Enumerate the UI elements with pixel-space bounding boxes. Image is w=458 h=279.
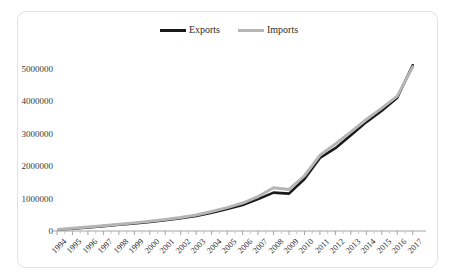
x-tick-label: 2005 [220, 237, 238, 255]
x-tick-label: 2007 [251, 237, 269, 255]
chart-container: Exports Imports 010000002000000300000040… [0, 0, 458, 279]
x-tick-label: 2016 [390, 237, 408, 255]
x-tick-label: 2017 [406, 237, 424, 255]
x-axis-tick-labels: 1994199519961997199819992000200120022003… [57, 229, 429, 275]
x-tick-label: 2003 [189, 237, 207, 255]
x-tick-label: 2001 [158, 237, 176, 255]
